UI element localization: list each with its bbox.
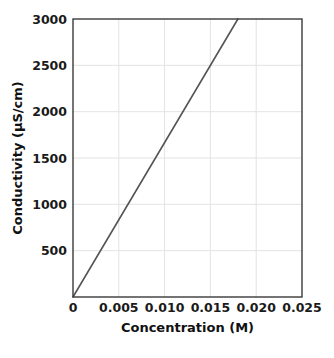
x-tick-label-0015: 0.015 <box>191 300 231 315</box>
y-tick-label-2000: 2000 <box>32 104 67 119</box>
conductivity-vs-concentration-chart: 3000 2500 2000 1500 1000 500 0 0.005 0.0… <box>0 0 334 358</box>
x-tick-label-0010: 0.010 <box>145 300 185 315</box>
y-tick-label-3000: 3000 <box>32 12 67 27</box>
x-axis-title: Concentration (M) <box>121 320 254 335</box>
x-tick-label-0020: 0.020 <box>236 300 276 315</box>
y-tick-label-1500: 1500 <box>32 151 67 166</box>
y-tick-label-1000: 1000 <box>32 197 67 212</box>
y-tick-label-500: 500 <box>41 243 67 258</box>
y-tick-label-2500: 2500 <box>32 58 67 73</box>
x-tick-label-0: 0 <box>69 300 78 315</box>
chart-figure: 3000 2500 2000 1500 1000 500 0 0.005 0.0… <box>0 0 334 358</box>
y-axis-title: Conductivity (µS/cm) <box>10 81 25 235</box>
x-tick-label-0005: 0.005 <box>99 300 139 315</box>
x-tick-label-0025: 0.025 <box>282 300 322 315</box>
